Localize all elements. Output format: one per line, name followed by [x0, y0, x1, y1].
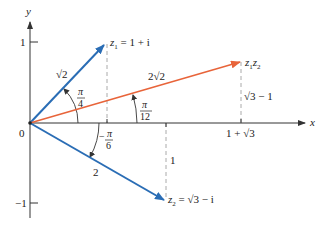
y-axis-label: y	[25, 5, 31, 17]
svg-text:6: 6	[106, 140, 111, 151]
svg-text:−: −	[99, 131, 105, 142]
z1z2-label: z1z2	[244, 56, 261, 71]
z1-label: z1 = 1 + i	[109, 36, 150, 51]
angle-arc-neg-pi-over-6	[90, 123, 99, 157]
origin-point	[28, 121, 32, 125]
complex-plane-diagram: y x 0 1 −1 z1 = 1 + i √2 π 4 z1z2 2√2 π …	[0, 0, 321, 228]
svg-text:12: 12	[140, 111, 150, 122]
z1z2-angle-label: π 12	[140, 99, 152, 122]
vector-z2	[30, 123, 164, 200]
y-tick-label-neg1: −1	[15, 197, 27, 209]
z2-modulus-label: 2	[93, 166, 99, 178]
svg-text:π: π	[142, 99, 148, 110]
z2-angle-label: − π 6	[99, 128, 113, 151]
y-tick-label-1: 1	[20, 36, 26, 48]
z1z2-modulus-label: 2√2	[148, 70, 165, 82]
z1z2-y-projection-label: √3 − 1	[244, 90, 273, 102]
angle-arc-pi-over-4	[64, 89, 78, 123]
origin-label: 0	[19, 127, 25, 139]
svg-text:π: π	[107, 128, 113, 139]
svg-text:π: π	[78, 86, 84, 97]
z2-label: z2 = √3 − i	[167, 193, 214, 208]
vector-z1	[30, 45, 104, 123]
z1-angle-label: π 4	[77, 86, 85, 109]
svg-text:4: 4	[78, 98, 83, 109]
angle-arc-pi-over-12	[133, 95, 137, 123]
z1-modulus-label: √2	[56, 68, 68, 80]
z1z2-x-projection-label: 1 + √3	[226, 127, 255, 139]
x-axis-label: x	[309, 116, 315, 128]
z2-y-projection-label: 1	[170, 154, 176, 166]
